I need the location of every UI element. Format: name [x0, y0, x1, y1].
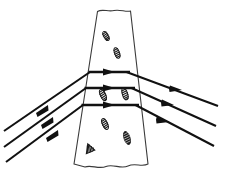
ray-2-outgoing [132, 88, 217, 126]
ray-3-outgoing [136, 105, 215, 146]
diagram-canvas [0, 0, 226, 177]
ray-3-incoming [6, 105, 83, 162]
wave-refraction-diagram [0, 0, 226, 177]
ray-2-incoming [4, 88, 86, 147]
